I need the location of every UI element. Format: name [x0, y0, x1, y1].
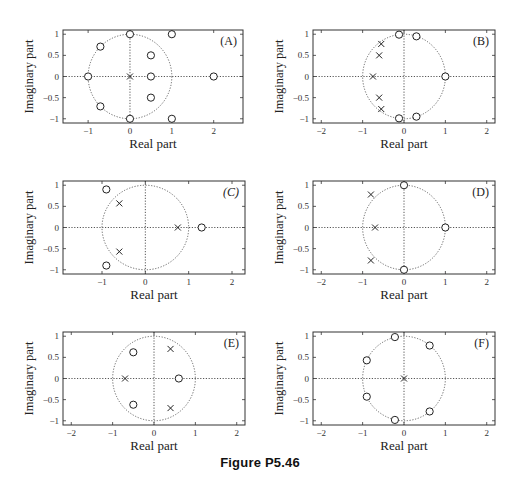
pole-marker	[368, 257, 374, 263]
pole-zero-plot-d: −2−1012−1−0.500.51Real partImaginary par…	[272, 180, 495, 302]
zero-marker	[168, 115, 175, 122]
x-tick-label: 1	[443, 277, 448, 287]
x-axis-label: Real part	[380, 438, 428, 453]
y-axis-label: Imaginary part	[22, 190, 36, 264]
y-axis-label: Imaginary part	[22, 39, 36, 113]
pole-zero-plot-b: −2−1012−1−0.500.51Real partImaginary par…	[272, 29, 495, 151]
y-tick-label: −1	[299, 114, 309, 124]
panel-label: (A)	[220, 34, 237, 48]
x-axis-label: Real part	[130, 287, 178, 302]
x-tick-label: −1	[83, 126, 93, 136]
y-tick-label: 0.5	[48, 201, 60, 211]
zero-marker	[97, 43, 104, 50]
zero-marker	[147, 52, 154, 59]
panel-label: (B)	[473, 34, 489, 48]
y-tick-label: −0.5	[43, 244, 60, 254]
zero-marker	[426, 342, 433, 349]
y-tick-label: −1	[49, 114, 59, 124]
zero-marker	[147, 94, 154, 101]
x-tick-label: 1	[443, 428, 448, 438]
zero-marker	[168, 31, 175, 38]
zero-marker	[175, 375, 182, 382]
x-tick-label: 1	[193, 428, 198, 438]
figure-caption: Figure P5.46	[0, 455, 520, 470]
zero-marker	[395, 115, 402, 122]
x-tick-label: 2	[230, 277, 235, 287]
zero-marker	[391, 333, 398, 340]
x-tick-label: −2	[316, 277, 326, 287]
y-tick-label: 0	[305, 223, 310, 233]
y-axis-label: Imaginary part	[272, 39, 286, 113]
pole-zero-plot-c: −1012−1−0.500.51Real partImaginary part(…	[22, 180, 245, 302]
zero-marker	[400, 182, 407, 189]
zero-marker	[210, 73, 217, 80]
zero-marker	[426, 408, 433, 415]
y-tick-label: 0	[55, 374, 60, 384]
x-tick-label: −1	[358, 126, 368, 136]
x-tick-label: −1	[108, 428, 118, 438]
panel-label: (E)	[224, 336, 239, 350]
x-tick-label: −2	[66, 428, 76, 438]
x-tick-label: −2	[316, 428, 326, 438]
zero-marker	[400, 266, 407, 273]
x-tick-label: 2	[234, 428, 239, 438]
y-tick-label: 1	[305, 331, 310, 341]
zero-marker	[85, 73, 92, 80]
zero-marker	[103, 186, 110, 193]
y-tick-label: −1	[49, 416, 59, 426]
y-tick-label: 1	[55, 180, 60, 190]
y-tick-label: 0.5	[298, 201, 310, 211]
zero-marker	[103, 262, 110, 269]
pole-zero-plot-f: −2−1012−1−0.500.51Real partImaginary par…	[272, 331, 495, 453]
x-tick-label: 0	[143, 277, 148, 287]
pole-marker	[116, 200, 122, 206]
zero-marker	[147, 73, 154, 80]
pole-marker	[376, 52, 382, 58]
y-tick-label: 1	[55, 331, 60, 341]
y-tick-label: −1	[299, 416, 309, 426]
x-axis-label: Real part	[129, 136, 177, 151]
pole-marker	[168, 346, 174, 352]
y-tick-label: −1	[49, 265, 59, 275]
x-tick-label: −1	[358, 428, 368, 438]
y-tick-label: −0.5	[293, 244, 310, 254]
y-tick-label: −1	[299, 265, 309, 275]
zero-marker	[126, 31, 133, 38]
pole-marker	[116, 249, 122, 255]
zero-marker	[391, 416, 398, 423]
zero-marker	[130, 349, 137, 356]
zero-marker	[442, 224, 449, 231]
x-tick-label: 2	[211, 126, 216, 136]
x-tick-label: −1	[97, 277, 107, 287]
zero-marker	[363, 357, 370, 364]
x-axis-label: Real part	[380, 136, 428, 151]
x-axis-label: Real part	[130, 438, 178, 453]
panel-label: (D)	[472, 185, 489, 199]
y-tick-label: 0.5	[298, 352, 310, 362]
y-tick-label: 0.5	[48, 50, 60, 60]
pole-zero-plot-e: −2−1012−1−0.500.51Real partImaginary par…	[22, 331, 245, 453]
pole-zero-plot-a: −1012−1−0.500.51Real partImaginary part(…	[22, 29, 243, 151]
y-tick-label: 1	[305, 180, 310, 190]
x-tick-label: 1	[186, 277, 191, 287]
x-tick-label: 0	[128, 126, 133, 136]
y-tick-label: 0.5	[48, 352, 60, 362]
x-tick-label: 0	[152, 428, 157, 438]
y-tick-label: −0.5	[43, 395, 60, 405]
x-tick-label: 0	[402, 277, 407, 287]
y-tick-label: 0	[55, 223, 60, 233]
x-tick-label: −1	[358, 277, 368, 287]
pole-marker	[368, 192, 374, 198]
y-axis-label: Imaginary part	[272, 341, 286, 415]
pole-marker	[378, 106, 384, 112]
zero-marker	[395, 31, 402, 38]
y-tick-label: 1	[55, 29, 60, 39]
zero-marker	[198, 224, 205, 231]
pole-marker	[168, 405, 174, 411]
pole-marker	[376, 95, 382, 101]
x-tick-label: 2	[484, 126, 489, 136]
y-tick-label: 0	[305, 374, 310, 384]
y-axis-label: Imaginary part	[272, 190, 286, 264]
panel-label: (C)	[223, 185, 239, 199]
x-tick-label: 2	[484, 428, 489, 438]
